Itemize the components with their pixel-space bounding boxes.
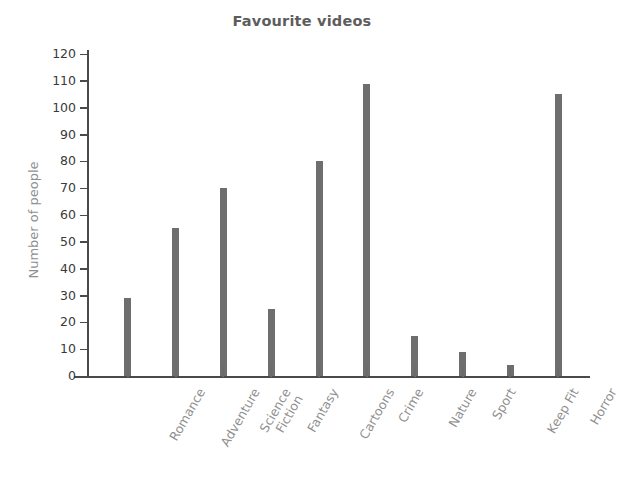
y-tick-label: 70 bbox=[36, 180, 76, 195]
y-tick-label: 80 bbox=[36, 153, 76, 168]
x-tick-mark bbox=[175, 366, 177, 377]
y-tick-mark bbox=[80, 80, 88, 82]
x-axis-category-label: Sport bbox=[489, 386, 518, 422]
x-axis-category-label: Nature bbox=[446, 386, 479, 430]
y-tick-label: 110 bbox=[36, 73, 76, 88]
y-tick-label: 20 bbox=[36, 314, 76, 329]
y-tick-mark bbox=[80, 241, 88, 243]
y-tick-mark bbox=[80, 107, 88, 109]
y-tick-mark bbox=[80, 134, 88, 136]
x-axis-category-label: Crime bbox=[396, 386, 427, 425]
x-tick-mark bbox=[414, 366, 416, 377]
x-axis-category-label: Fantasy bbox=[305, 386, 341, 435]
y-tick-mark bbox=[80, 188, 88, 190]
x-tick-mark bbox=[222, 366, 224, 377]
y-tick-label: 100 bbox=[36, 100, 76, 115]
x-axis-category-label: Romance bbox=[167, 386, 208, 443]
bar bbox=[172, 228, 179, 376]
bar bbox=[220, 188, 227, 376]
x-axis-category-label: Science Fiction bbox=[258, 386, 306, 442]
y-tick-mark bbox=[80, 54, 88, 56]
y-tick-mark bbox=[80, 349, 88, 351]
y-tick-mark bbox=[80, 215, 88, 217]
y-tick-label: 40 bbox=[36, 261, 76, 276]
x-tick-mark bbox=[366, 366, 368, 377]
bar bbox=[555, 94, 562, 376]
y-tick-label: 90 bbox=[36, 127, 76, 142]
y-tick-label: 0 bbox=[36, 368, 76, 383]
x-tick-mark bbox=[462, 366, 464, 377]
y-tick-label: 30 bbox=[36, 288, 76, 303]
x-tick-mark bbox=[318, 366, 320, 377]
y-tick-label: 10 bbox=[36, 341, 76, 356]
y-tick-mark bbox=[80, 161, 88, 163]
y-tick-mark bbox=[80, 322, 88, 324]
x-tick-mark bbox=[557, 366, 559, 377]
x-axis-category-label: Keep Fit bbox=[545, 386, 582, 436]
y-tick-mark bbox=[80, 295, 88, 297]
x-tick-mark bbox=[270, 366, 272, 377]
y-tick-mark bbox=[80, 376, 88, 378]
x-tick-mark bbox=[127, 366, 129, 377]
x-axis-category-label: Adventure bbox=[218, 386, 262, 449]
y-tick-mark bbox=[80, 268, 88, 270]
bar bbox=[316, 161, 323, 376]
chart-title: Favourite videos bbox=[0, 13, 604, 29]
x-tick-mark bbox=[509, 366, 511, 377]
bar bbox=[124, 298, 131, 376]
x-axis-line bbox=[74, 376, 590, 378]
y-tick-label: 120 bbox=[36, 46, 76, 61]
x-axis-category-label: Horror bbox=[588, 386, 620, 427]
y-tick-label: 60 bbox=[36, 207, 76, 222]
bar bbox=[363, 84, 370, 376]
y-axis-title: Number of people bbox=[8, 0, 23, 130]
y-tick-label: 50 bbox=[36, 234, 76, 249]
x-axis-category-label: Cartoons bbox=[357, 386, 397, 442]
